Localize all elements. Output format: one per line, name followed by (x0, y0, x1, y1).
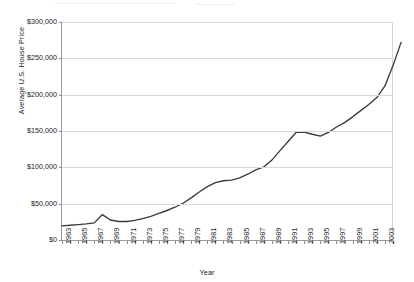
x-axis-tick-label: 1983 (225, 218, 234, 244)
x-axis-tick-label: 1993 (306, 218, 315, 244)
x-axis-tick-labels: 1963196519671969197119731975197719791981… (0, 0, 414, 282)
x-axis-tick-label: 1979 (193, 218, 202, 244)
x-axis-tick-label: 1969 (112, 218, 121, 244)
x-axis-tick-label: 1967 (96, 218, 105, 244)
x-axis-tick-label: 1977 (177, 218, 186, 244)
x-axis-tick-label: 1999 (355, 218, 364, 244)
x-axis-tick-label: 1997 (338, 218, 347, 244)
x-axis-tick-label: 1989 (274, 218, 283, 244)
x-axis-title: Year (0, 268, 414, 277)
x-axis-tick-label: 1987 (258, 218, 267, 244)
x-axis-tick-label: 1985 (242, 218, 251, 244)
x-axis-tick-label: 1965 (80, 218, 89, 244)
x-axis-tick-label: 2003 (387, 218, 396, 244)
x-axis-tick-label: 1975 (161, 218, 170, 244)
x-axis-tick-label: 1981 (209, 218, 218, 244)
x-axis-tick-label: 1971 (129, 218, 138, 244)
x-axis-tick-label: 1991 (290, 218, 299, 244)
x-axis-tick-label: 1963 (64, 218, 73, 244)
x-axis-tick-label: 1973 (145, 218, 154, 244)
x-axis-tick-label: 2001 (371, 218, 380, 244)
x-axis-tick-label: 1995 (322, 218, 331, 244)
house-price-line-chart: Average U.S. House Price $300,000$250,00… (0, 0, 414, 282)
